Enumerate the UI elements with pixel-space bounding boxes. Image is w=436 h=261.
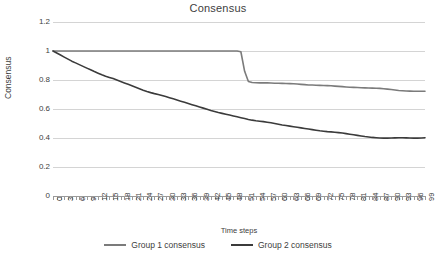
x-tick-mark: [346, 196, 347, 200]
x-tick-label: 0: [56, 197, 64, 201]
y-tick-label: 0: [24, 192, 50, 200]
x-tick-label: 57: [270, 193, 278, 201]
x-tick-label: 39: [203, 193, 211, 201]
x-tick-label: 87: [383, 193, 391, 201]
x-tick-label: 66: [304, 193, 312, 201]
x-axis-tick-labels: 0369121518212427303336394245485154576063…: [53, 196, 425, 226]
x-tick-label: 6: [79, 197, 87, 201]
series-lines: [53, 22, 425, 196]
x-tick-label: 84: [372, 193, 380, 201]
x-tick-mark: [177, 196, 178, 200]
legend-swatch-icon: [104, 244, 126, 246]
chart-title: Consensus: [0, 2, 436, 14]
x-tick-mark: [53, 196, 54, 200]
chart-legend: Group 1 consensusGroup 2 consensus: [0, 240, 436, 250]
y-axis-tick-labels: 1.210.80.60.40.20: [18, 0, 50, 261]
x-tick-mark: [132, 196, 133, 200]
x-tick-label: 18: [124, 193, 132, 201]
x-tick-label: 27: [157, 193, 165, 201]
x-tick-mark: [121, 196, 122, 200]
x-tick-label: 96: [417, 193, 425, 201]
legend-swatch-icon: [231, 244, 253, 246]
consensus-chart: Consensus Consensus 1.210.80.60.40.20 03…: [0, 0, 436, 261]
x-tick-mark: [76, 196, 77, 200]
x-tick-label: 75: [338, 193, 346, 201]
y-tick-label: 1: [24, 47, 50, 55]
x-tick-mark: [369, 196, 370, 200]
x-tick-label: 48: [236, 193, 244, 201]
y-axis-title: Consensus: [3, 87, 13, 99]
x-tick-label: 54: [259, 193, 267, 201]
y-tick-label: 0.8: [24, 76, 50, 84]
x-tick-mark: [290, 196, 291, 200]
x-tick-mark: [414, 196, 415, 200]
x-tick-mark: [380, 196, 381, 200]
x-tick-mark: [200, 196, 201, 200]
x-tick-label: 15: [112, 193, 120, 201]
x-tick-label: 12: [101, 193, 109, 201]
x-tick-label: 72: [327, 193, 335, 201]
x-tick-label: 3: [67, 197, 75, 201]
y-tick-label: 0.4: [24, 134, 50, 142]
x-tick-mark: [245, 196, 246, 200]
x-tick-label: 30: [169, 193, 177, 201]
x-tick-mark: [301, 196, 302, 200]
x-tick-mark: [324, 196, 325, 200]
x-tick-label: 9: [90, 197, 98, 201]
x-tick-label: 33: [180, 193, 188, 201]
x-tick-mark: [222, 196, 223, 200]
series-line: [53, 51, 425, 138]
x-tick-label: 78: [349, 193, 357, 201]
x-tick-mark: [256, 196, 257, 200]
x-tick-label: 63: [293, 193, 301, 201]
legend-item[interactable]: Group 2 consensus: [231, 240, 332, 250]
x-tick-mark: [98, 196, 99, 200]
y-tick-label: 0.6: [24, 105, 50, 113]
x-tick-label: 42: [214, 193, 222, 201]
x-tick-mark: [425, 196, 426, 200]
x-tick-label: 36: [191, 193, 199, 201]
x-tick-label: 93: [405, 193, 413, 201]
series-line: [53, 51, 425, 91]
x-tick-mark: [166, 196, 167, 200]
x-tick-label: 90: [394, 193, 402, 201]
x-tick-label: 51: [248, 193, 256, 201]
x-tick-label: 99: [428, 193, 436, 201]
legend-label: Group 2 consensus: [258, 240, 332, 250]
x-tick-label: 81: [360, 193, 368, 201]
legend-label: Group 1 consensus: [131, 240, 205, 250]
legend-item[interactable]: Group 1 consensus: [104, 240, 205, 250]
x-tick-label: 21: [135, 193, 143, 201]
x-axis-title: Time steps: [53, 226, 425, 235]
x-tick-label: 60: [281, 193, 289, 201]
x-tick-label: 24: [146, 193, 154, 201]
plot-area: [53, 22, 425, 196]
x-tick-label: 69: [315, 193, 323, 201]
y-tick-label: 0.2: [24, 163, 50, 171]
y-tick-label: 1.2: [24, 18, 50, 26]
x-tick-label: 45: [225, 193, 233, 201]
